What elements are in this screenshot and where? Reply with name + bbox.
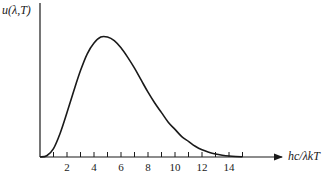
x-tick-label: 14 xyxy=(224,161,235,173)
x-tick-label: 8 xyxy=(145,161,151,173)
x-tick-label: 4 xyxy=(91,161,97,173)
x-tick-label: 2 xyxy=(64,161,70,173)
y-axis-label: u(λ,T) xyxy=(2,3,31,18)
x-axis-label: hc/λkT xyxy=(288,149,320,164)
chart-canvas xyxy=(0,0,327,179)
x-tick-label: 12 xyxy=(197,161,208,173)
data-line xyxy=(40,36,243,157)
x-tick-label: 10 xyxy=(170,161,181,173)
x-axis-arrowhead-icon xyxy=(274,154,283,161)
x-tick-label: 6 xyxy=(118,161,124,173)
